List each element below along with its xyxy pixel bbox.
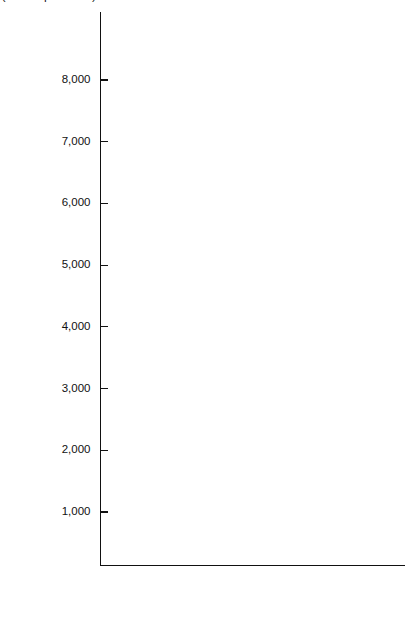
y-axis-title: Million Metric Tons (Coal Equivalents) — [0, 0, 96, 2]
y-axis-title-group: Million Metric Tons (Coal Equivalents) — [0, 0, 96, 2]
y-tick-label: 7,000 — [62, 135, 91, 147]
axis-lines — [101, 12, 406, 566]
y-axis-tick-labels: 1,0002,0003,0004,0005,0006,0007,0008,000 — [62, 73, 91, 517]
axes-group — [101, 12, 406, 566]
y-tick-label: 5,000 — [62, 258, 91, 270]
y-tick-label: 8,000 — [62, 73, 91, 85]
line-chart: 1,0002,0003,0004,0005,0006,0007,0008,000… — [0, 0, 420, 622]
chart-container: 1,0002,0003,0004,0005,0006,0007,0008,000… — [0, 0, 420, 622]
y-tick-label: 4,000 — [62, 320, 91, 332]
y-tick-label: 2,000 — [62, 443, 91, 455]
y-tick-label: 3,000 — [62, 382, 91, 394]
y-tick-label: 1,000 — [62, 505, 91, 517]
y-axis-ticks — [101, 80, 108, 512]
y-tick-label: 6,000 — [62, 196, 91, 208]
